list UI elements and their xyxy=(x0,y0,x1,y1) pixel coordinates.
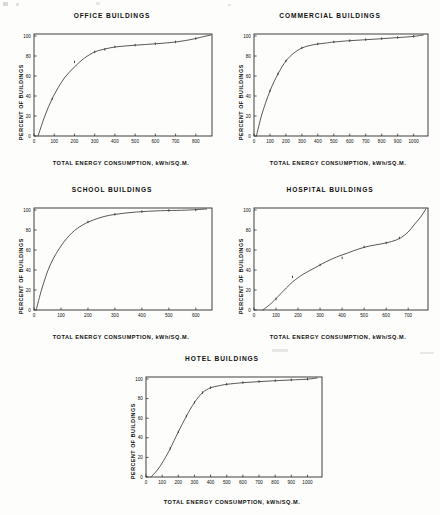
plot-area-hospital: 0204060801000100200300400500600700 xyxy=(224,200,436,332)
svg-text:100: 100 xyxy=(243,208,251,213)
svg-text:0: 0 xyxy=(248,134,251,139)
svg-text:100: 100 xyxy=(272,313,280,318)
svg-text:700: 700 xyxy=(404,313,412,318)
plot-svg-hotel: 0204060801000100200300400500600700800900… xyxy=(114,369,330,497)
svg-text:600: 600 xyxy=(152,139,160,144)
plot-area-office: 0204060801000100200300400500600700800 xyxy=(4,26,220,158)
plot-area-hotel: 0204060801000100200300400500600700800900… xyxy=(114,369,330,497)
scan-speck xyxy=(420,352,434,354)
plot-area-school: 0204060801000100200300400500600 xyxy=(4,200,220,332)
svg-text:800: 800 xyxy=(378,139,386,144)
chart-panel-school: SCHOOL BUILDINGS 02040608010001002003004… xyxy=(4,186,220,346)
svg-text:400: 400 xyxy=(207,480,215,485)
svg-text:100: 100 xyxy=(158,480,166,485)
svg-text:20: 20 xyxy=(246,114,252,119)
chart-title-hotel: HOTEL BUILDINGS xyxy=(114,355,330,362)
svg-text:60: 60 xyxy=(26,248,32,253)
y-axis-label-commercial: PERCENT OF BUILDINGS xyxy=(238,64,244,140)
svg-text:300: 300 xyxy=(91,139,99,144)
x-axis-label-office: TOTAL ENERGY CONSUMPTION, kWh/SQ.M. xyxy=(26,160,216,166)
x-axis-label-hospital: TOTAL ENERGY CONSUMPTION, kWh/SQ.M. xyxy=(244,334,432,340)
svg-text:600: 600 xyxy=(382,313,390,318)
svg-text:60: 60 xyxy=(246,74,252,79)
chart-panel-hotel: HOTEL BUILDINGS 020406080100010020030040… xyxy=(114,355,330,513)
svg-text:0: 0 xyxy=(33,139,36,144)
svg-text:600: 600 xyxy=(192,313,200,318)
svg-text:100: 100 xyxy=(243,34,251,39)
plot-svg-hospital: 0204060801000100200300400500600700 xyxy=(224,200,436,332)
svg-text:40: 40 xyxy=(246,268,252,273)
y-axis-label-hospital: PERCENT OF BUILDINGS xyxy=(238,238,244,314)
y-axis-label-hotel: PERCENT OF BUILDINGS xyxy=(130,403,136,479)
chart-panel-commercial: COMMERCIAL BUILDINGS 0204060801000100200… xyxy=(224,12,436,172)
chart-title-commercial: COMMERCIAL BUILDINGS xyxy=(224,12,436,19)
svg-text:700: 700 xyxy=(362,139,370,144)
x-axis-label-school: TOTAL ENERGY CONSUMPTION, kWh/SQ.M. xyxy=(26,334,216,340)
chart-title-school: SCHOOL BUILDINGS xyxy=(4,186,220,193)
svg-text:0: 0 xyxy=(145,480,148,485)
svg-text:40: 40 xyxy=(26,268,32,273)
chart-panel-hospital: HOSPITAL BUILDINGS 020406080100010020030… xyxy=(224,186,436,346)
svg-text:80: 80 xyxy=(246,228,252,233)
svg-text:0: 0 xyxy=(28,308,31,313)
svg-text:100: 100 xyxy=(135,377,143,382)
svg-text:40: 40 xyxy=(26,94,32,99)
svg-text:200: 200 xyxy=(174,480,182,485)
svg-text:800: 800 xyxy=(271,480,279,485)
svg-text:500: 500 xyxy=(360,313,368,318)
svg-text:500: 500 xyxy=(330,139,338,144)
svg-text:100: 100 xyxy=(266,139,274,144)
svg-text:900: 900 xyxy=(287,480,295,485)
svg-text:100: 100 xyxy=(23,208,31,213)
svg-text:300: 300 xyxy=(316,313,324,318)
svg-text:60: 60 xyxy=(246,248,252,253)
svg-text:600: 600 xyxy=(239,480,247,485)
chart-title-hospital: HOSPITAL BUILDINGS xyxy=(224,186,436,193)
svg-text:40: 40 xyxy=(246,94,252,99)
svg-text:80: 80 xyxy=(246,54,252,59)
svg-text:80: 80 xyxy=(26,54,32,59)
svg-text:700: 700 xyxy=(255,480,263,485)
svg-text:0: 0 xyxy=(33,313,36,318)
svg-text:0: 0 xyxy=(28,134,31,139)
svg-text:0: 0 xyxy=(253,139,256,144)
svg-text:80: 80 xyxy=(138,396,144,401)
svg-text:1000: 1000 xyxy=(302,480,313,485)
svg-text:700: 700 xyxy=(172,139,180,144)
svg-text:300: 300 xyxy=(298,139,306,144)
figure-page: OFFICE BUILDINGS 02040608010001002003004… xyxy=(0,0,440,515)
svg-text:400: 400 xyxy=(138,313,146,318)
scan-speck xyxy=(96,2,100,5)
svg-text:80: 80 xyxy=(26,228,32,233)
svg-text:200: 200 xyxy=(294,313,302,318)
chart-title-office: OFFICE BUILDINGS xyxy=(4,12,220,19)
svg-text:20: 20 xyxy=(138,455,144,460)
scan-speck xyxy=(3,2,8,6)
scan-speck xyxy=(16,3,19,6)
svg-text:900: 900 xyxy=(394,139,402,144)
svg-text:60: 60 xyxy=(138,416,144,421)
svg-text:100: 100 xyxy=(23,34,31,39)
y-axis-label-school: PERCENT OF BUILDINGS xyxy=(18,238,24,314)
svg-text:100: 100 xyxy=(57,313,65,318)
svg-text:600: 600 xyxy=(346,139,354,144)
y-axis-label-office: PERCENT OF BUILDINGS xyxy=(18,64,24,140)
plot-area-commercial: 0204060801000100200300400500600700800900… xyxy=(224,26,436,158)
svg-text:300: 300 xyxy=(111,313,119,318)
svg-text:300: 300 xyxy=(191,480,199,485)
plot-svg-office: 0204060801000100200300400500600700800 xyxy=(4,26,220,158)
svg-text:200: 200 xyxy=(84,313,92,318)
svg-text:500: 500 xyxy=(165,313,173,318)
chart-panel-office: OFFICE BUILDINGS 02040608010001002003004… xyxy=(4,12,220,172)
svg-text:800: 800 xyxy=(192,139,200,144)
scan-speck xyxy=(272,349,288,352)
svg-text:400: 400 xyxy=(111,139,119,144)
scan-speck xyxy=(228,4,231,6)
plot-svg-school: 0204060801000100200300400500600 xyxy=(4,200,220,332)
svg-text:0: 0 xyxy=(140,475,143,480)
plot-svg-commercial: 0204060801000100200300400500600700800900… xyxy=(224,26,436,158)
svg-text:100: 100 xyxy=(50,139,58,144)
svg-text:1000: 1000 xyxy=(409,139,420,144)
svg-text:500: 500 xyxy=(223,480,231,485)
svg-text:500: 500 xyxy=(131,139,139,144)
